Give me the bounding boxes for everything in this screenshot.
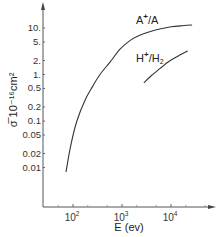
y-ticks: 10.5.2.1.0.50.20.10.050.020.01 — [23, 22, 46, 173]
x-axis-arrow — [208, 205, 216, 209]
y-tick-label: 0.05 — [23, 129, 42, 140]
series-label-a-plus-a: A+/A — [136, 12, 159, 26]
x-axis-title: E (ev) — [114, 221, 143, 233]
x-tick-label: 104 — [163, 210, 178, 223]
y-tick-label: 0.01 — [23, 162, 42, 173]
y-tick-label: 0.5 — [28, 82, 41, 93]
y-tick-label: 0.02 — [23, 148, 42, 159]
y-tick-label: 0.2 — [28, 101, 41, 112]
y-axis-title: σ̅ 10⁻¹⁶cm² — [7, 72, 19, 127]
curve-labels: A+/AH+/H2 — [136, 12, 164, 65]
series-line-a-plus-a — [66, 25, 192, 172]
y-axis-arrow — [41, 2, 45, 10]
y-tick-label: 0.1 — [28, 115, 41, 126]
y-tick-label: 2. — [33, 55, 41, 66]
y-tick-label: 10. — [28, 22, 41, 33]
x-tick-label: 102 — [65, 210, 80, 223]
cross-section-chart: 10.5.2.1.0.50.20.10.050.020.01 102103104… — [0, 0, 220, 237]
axes — [41, 2, 216, 209]
y-tick-label: 1. — [33, 69, 41, 80]
series-group — [66, 25, 192, 172]
series-label-h-plus-h2: H+/H2 — [136, 50, 164, 65]
y-tick-label: 5. — [33, 36, 41, 47]
